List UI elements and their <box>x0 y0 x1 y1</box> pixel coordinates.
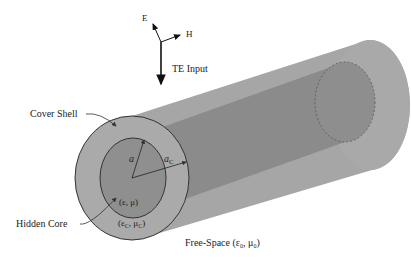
e-field-label: E <box>142 13 148 23</box>
free-space-label: Free-Space (ε0, μ0) <box>185 237 260 249</box>
core-params-label: (ε, μ) <box>119 197 138 207</box>
cover-shell-label: Cover Shell <box>30 108 78 119</box>
h-field-arrow <box>161 35 180 42</box>
h-field-label: H <box>186 29 193 39</box>
e-field-arrow <box>153 24 161 42</box>
cylinder-diagram: a aC (ε, μ) (εC, μC) Cover Shell Hidden … <box>0 0 411 262</box>
hidden-core-label: Hidden Core <box>16 218 68 229</box>
radius-a-label: a <box>129 153 134 164</box>
far-core-ellipse <box>315 62 375 142</box>
te-input-label: TE Input <box>172 63 208 74</box>
